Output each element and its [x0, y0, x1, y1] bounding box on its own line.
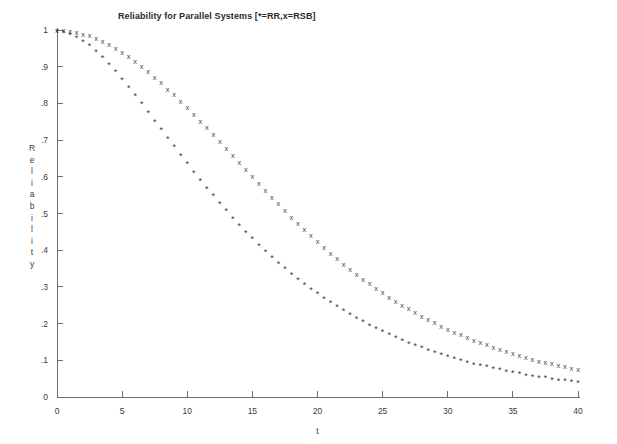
data-point-rr: * — [453, 354, 457, 364]
data-point-rr: * — [400, 336, 404, 346]
data-point-rr: * — [563, 376, 567, 386]
data-point-rsb: x — [94, 34, 98, 43]
data-point-rsb: x — [420, 312, 424, 321]
data-point-rsb: x — [407, 304, 411, 313]
x-tick-label: 35 — [508, 406, 518, 416]
data-point-rr: * — [185, 159, 189, 169]
data-point-rsb: x — [140, 62, 144, 71]
axis-ticks — [57, 30, 578, 397]
data-point-rsb: x — [433, 318, 437, 327]
data-point-rsb: x — [335, 254, 339, 263]
data-point-rsb: x — [387, 293, 391, 302]
data-point-rr: * — [355, 314, 359, 324]
data-point-rsb: x — [322, 243, 326, 252]
data-point-rsb: x — [439, 322, 443, 331]
data-point-rsb: x — [478, 338, 482, 347]
data-point-rr: * — [518, 369, 522, 379]
data-point-rsb: x — [329, 249, 333, 258]
y-tick-label: .3 — [41, 282, 48, 292]
series-rr-points: ****************************************… — [55, 27, 580, 388]
data-point-rr: * — [446, 352, 450, 362]
data-point-rr: * — [348, 310, 352, 320]
data-point-rr: * — [277, 259, 281, 269]
data-point-rr: * — [576, 378, 580, 388]
data-point-rsb: x — [426, 315, 430, 324]
data-point-rsb: x — [563, 362, 567, 371]
y-tick-label: .8 — [41, 98, 48, 108]
data-point-rsb: x — [133, 57, 137, 66]
data-point-rsb: x — [185, 103, 189, 112]
x-tick-label: 20 — [313, 406, 323, 416]
data-point-rsb: x — [361, 275, 365, 284]
data-point-rr: * — [133, 91, 137, 101]
data-point-rsb: x — [120, 48, 124, 57]
data-point-rsb: x — [257, 179, 261, 188]
data-point-rr: * — [140, 99, 144, 109]
data-point-rsb: x — [277, 199, 281, 208]
data-point-rr: * — [153, 117, 157, 127]
data-point-rr: * — [218, 199, 222, 209]
data-point-rsb: x — [264, 186, 268, 195]
data-point-rr: * — [570, 377, 574, 387]
data-point-rsb: x — [237, 158, 241, 167]
data-point-rsb: x — [166, 85, 170, 94]
data-point-rsb: x — [107, 40, 111, 49]
data-point-rsb: x — [146, 67, 150, 76]
data-point-rr: * — [114, 67, 118, 77]
data-point-rr: * — [55, 27, 59, 37]
x-tick-label: 10 — [183, 406, 193, 416]
data-point-rsb: x — [88, 31, 92, 40]
data-point-rr: * — [179, 151, 183, 161]
y-tick-label: .7 — [41, 135, 48, 145]
data-point-rsb: x — [348, 265, 352, 274]
data-point-rr: * — [544, 373, 548, 383]
data-point-rsb: x — [576, 365, 580, 374]
data-point-rsb: x — [413, 308, 417, 317]
data-point-rsb: x — [459, 330, 463, 339]
data-point-rr: * — [524, 371, 528, 381]
data-point-rr: * — [172, 142, 176, 152]
data-point-rr: * — [531, 372, 535, 382]
data-point-rr: * — [322, 294, 326, 304]
data-point-rr: * — [205, 184, 209, 194]
data-point-rr: * — [127, 83, 131, 93]
data-point-rsb: x — [159, 78, 163, 87]
x-tick-label: 30 — [443, 406, 453, 416]
data-point-rr: * — [433, 348, 437, 358]
data-point-rr: * — [394, 333, 398, 343]
data-point-rr: * — [426, 346, 430, 356]
data-point-rsb: x — [224, 144, 228, 153]
data-point-rsb: x — [179, 97, 183, 106]
data-point-rr: * — [264, 247, 268, 257]
data-point-rr: * — [492, 364, 496, 374]
x-tick-label: 15 — [248, 406, 258, 416]
y-tick-label: 0 — [43, 392, 48, 402]
data-point-rr: * — [485, 362, 489, 372]
data-point-rr: * — [166, 134, 170, 144]
data-point-rr: * — [88, 41, 92, 51]
data-point-rr: * — [120, 75, 124, 85]
data-point-rsb: x — [172, 90, 176, 99]
y-tick-label: .1 — [41, 355, 48, 365]
x-tick-label: 5 — [120, 406, 125, 416]
data-point-rsb: x — [531, 355, 535, 364]
data-point-rsb: x — [446, 325, 450, 334]
data-point-rsb: x — [452, 328, 456, 337]
data-point-rsb: x — [511, 349, 515, 358]
plot-area: 0.1.2.3.4.5.6.7.8.910510152025303540 xxx… — [0, 0, 617, 444]
data-point-rr: * — [374, 324, 378, 334]
data-point-rsb: x — [342, 260, 346, 269]
data-point-rsb: x — [557, 361, 561, 370]
series-rsb-points: xxxxxxxxxxxxxxxxxxxxxxxxxxxxxxxxxxxxxxxx… — [55, 26, 580, 374]
data-point-rsb: x — [309, 231, 313, 240]
data-point-rr: * — [62, 28, 66, 38]
x-axis-title-text: t — [316, 426, 319, 436]
data-point-rsb: x — [205, 123, 209, 132]
data-point-rr: * — [479, 361, 483, 371]
data-point-rr: * — [212, 191, 216, 201]
data-point-rr: * — [368, 321, 372, 331]
data-point-rsb: x — [114, 44, 118, 53]
data-point-rsb: x — [251, 172, 255, 181]
data-point-rr: * — [557, 376, 561, 386]
data-point-rr: * — [439, 350, 443, 360]
